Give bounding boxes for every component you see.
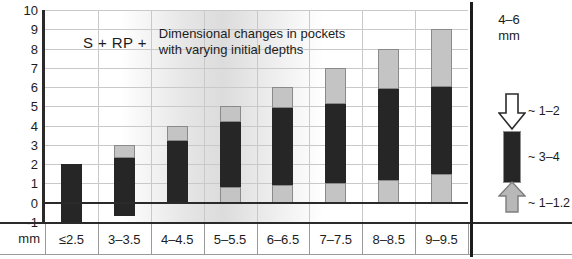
legend-title-line-2: mm [474,28,544,44]
bar-segment-upper-light [325,68,346,105]
y-tick-label: 10 [24,4,38,17]
bar-segment-upper-light [272,87,293,108]
bar-segment-lower-light [378,180,399,203]
y-tick-label: 2 [31,158,38,171]
y-tick-label: 0 [31,196,38,209]
y-tick-label: 4 [31,119,38,132]
legend-arrow-down-label: ~ 1–2 [528,104,560,118]
arrow-down-icon [498,93,526,131]
x-tick-label: 6–6.5 [257,224,310,254]
arrow-up-icon [498,181,526,213]
x-axis-separator [45,224,46,254]
bar-segment-upper-light [114,145,135,158]
bar-segment-dark [272,108,293,185]
x-tick-label: 7–7.5 [309,224,362,254]
bar-segment-dark [167,141,188,204]
x-axis-separator [98,224,99,254]
y-tick-label: 3 [31,138,38,151]
bar-segment-upper-light [167,126,188,141]
bar-group[interactable] [431,10,452,222]
legend-dark-bar-label: ~ 3–4 [528,150,560,164]
vertical-gridline [415,10,416,222]
x-axis-separator [415,224,416,254]
x-axis-separator [309,224,310,254]
title-line-2: with varying initial depths [159,42,345,58]
x-tick-label: 3–3.5 [98,224,151,254]
y-tick-label: 1 [31,177,38,190]
y-tick-label: 8 [31,42,38,55]
title-main: Dimensional changes in pockets with vary… [159,26,345,59]
bar-segment-dark [378,89,399,180]
legend-title: 4–6 mm [474,12,544,45]
y-axis: 109876543210-1mm [0,0,42,259]
x-axis-separator [257,224,258,254]
bar-segment-dark [220,122,241,188]
x-tick-label: 8–8.5 [362,224,415,254]
bar-segment-lower-light [431,174,452,203]
chart-figure: 109876543210-1mm S + RP + Dimensional ch… [0,0,572,259]
x-tick-label: 5–5.5 [204,224,257,254]
x-tick-label: 4–4.5 [151,224,204,254]
chart-title: S + RP + Dimensional changes in pockets … [83,26,373,60]
bar-segment-upper-light [378,49,399,89]
bar-segment-upper-light [220,106,241,121]
y-tick-label: 5 [31,100,38,113]
bar-segment-lower-light [220,187,241,202]
bar-segment-upper-light [431,29,452,87]
legend-panel: 4–6 mm ~ 1–2 ~ 3–4 ~ 1–1.2 [474,0,572,222]
y-axis-unit: mm [18,232,40,245]
legend-title-line-1: 4–6 [474,12,544,28]
bar-group[interactable] [378,10,399,222]
x-tick-label: ≤2.5 [45,224,98,254]
title-line-1: Dimensional changes in pockets [159,26,345,42]
legend-divider [470,2,473,257]
x-axis-separator [204,224,205,254]
x-axis-bottom-border [0,254,572,255]
x-axis-separator [151,224,152,254]
x-tick-label: 9–9.5 [415,224,468,254]
zero-baseline [45,202,468,204]
bar-segment-lower-light [272,185,293,202]
bar-segment-dark [61,164,82,222]
x-axis-separator [362,224,363,254]
legend-arrow-up-label: ~ 1–1.2 [528,196,570,210]
bar-segment-dark [431,87,452,174]
y-tick-label: 9 [31,23,38,36]
bar-segment-dark [325,104,346,183]
y-tick-label: 7 [31,61,38,74]
bar-group[interactable] [61,10,82,222]
legend-dark-bar-swatch [503,131,521,183]
bar-segment-dark [114,158,135,216]
x-axis-separator [468,224,469,254]
title-prefix: S + RP + [83,26,147,51]
y-tick-label: 6 [31,81,38,94]
bar-segment-lower-light [325,183,346,202]
